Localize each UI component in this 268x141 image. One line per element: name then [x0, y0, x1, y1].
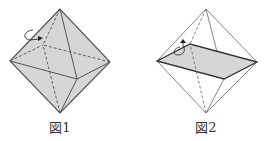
- square-cross-section: [157, 44, 257, 79]
- octahedron-silhouette: [10, 9, 110, 113]
- figure-2-octahedron: [157, 9, 257, 113]
- edge-hidden: [190, 9, 206, 44]
- edge: [206, 79, 224, 113]
- figure-1-octahedron: [10, 9, 110, 113]
- figure-2-caption: 図2: [186, 117, 226, 136]
- figure-1-caption: 図1: [40, 117, 80, 136]
